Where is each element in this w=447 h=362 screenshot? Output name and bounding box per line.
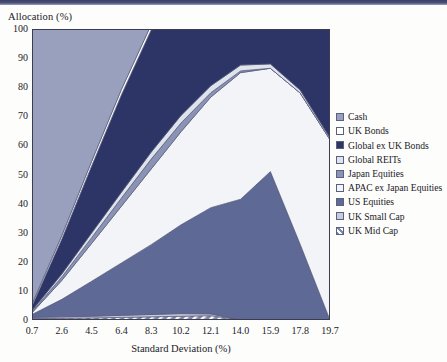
x-tick-label: 0.7 (26, 326, 39, 336)
x-axis-title: Standard Deviation (%) (32, 343, 330, 354)
y-tick-label: 50 (18, 170, 28, 180)
x-tick-label: 15.9 (262, 326, 280, 336)
y-tick-label: 0 (23, 315, 28, 325)
legend-item-label: Global REITs (348, 155, 401, 165)
y-tick-label: 60 (18, 140, 28, 150)
legend-swatch-icon (336, 127, 344, 135)
legend-item-label: UK Bonds (348, 126, 389, 136)
legend-swatch-icon (336, 156, 344, 164)
y-tick-label: 100 (13, 24, 28, 34)
area-series-group (32, 29, 330, 320)
x-tick-label: 6.4 (115, 326, 128, 336)
legend-item[interactable]: Global REITs (336, 153, 446, 167)
legend-item[interactable]: Global ex UK Bonds (336, 138, 446, 152)
y-tick-label: 40 (18, 199, 28, 209)
legend-item-label: APAC ex Japan Equities (348, 183, 442, 193)
legend-swatch-icon (336, 227, 344, 235)
y-tick-label: 20 (18, 257, 28, 267)
y-tick-label: 30 (18, 228, 28, 238)
y-tick-label: 80 (18, 82, 28, 92)
chart-legend: CashUK BondsGlobal ex UK BondsGlobal REI… (336, 110, 446, 238)
allocation-area-chart: Allocation (%) 0102030405060708090100 0.… (0, 5, 447, 362)
y-tick-label: 70 (18, 111, 28, 121)
legend-item[interactable]: UK Mid Cap (336, 224, 446, 238)
y-tick-label: 10 (18, 286, 28, 296)
y-tick-label: 90 (18, 53, 28, 63)
stacked-area-svg (32, 29, 330, 320)
legend-item-label: US Equities (348, 197, 394, 207)
legend-item-label: Japan Equities (348, 169, 404, 179)
legend-swatch-icon (336, 198, 344, 206)
legend-swatch-icon (336, 184, 344, 192)
legend-item[interactable]: APAC ex Japan Equities (336, 181, 446, 195)
legend-item[interactable]: Japan Equities (336, 167, 446, 181)
plot-area: 0102030405060708090100 0.72.64.56.48.310… (32, 29, 330, 320)
y-axis-title: Allocation (%) (8, 11, 72, 22)
x-tick-label: 19.7 (321, 326, 339, 336)
x-tick-label: 8.3 (145, 326, 158, 336)
legend-swatch-icon (336, 170, 344, 178)
legend-item-label: Global ex UK Bonds (348, 141, 429, 151)
x-tick-label: 14.0 (232, 326, 250, 336)
legend-item[interactable]: UK Bonds (336, 124, 446, 138)
legend-swatch-icon (336, 212, 344, 220)
x-tick-label: 2.6 (56, 326, 69, 336)
legend-item-label: Cash (348, 112, 367, 122)
legend-item[interactable]: US Equities (336, 195, 446, 209)
legend-swatch-icon (336, 113, 344, 121)
x-tick-label: 10.2 (172, 326, 190, 336)
x-tick-label: 12.1 (202, 326, 220, 336)
x-tick-label: 4.5 (85, 326, 98, 336)
legend-item[interactable]: UK Small Cap (336, 209, 446, 223)
legend-item-label: UK Mid Cap (348, 226, 398, 236)
legend-item-label: UK Small Cap (348, 212, 405, 222)
x-tick-label: 17.8 (291, 326, 309, 336)
legend-swatch-icon (336, 141, 344, 149)
legend-item[interactable]: Cash (336, 110, 446, 124)
